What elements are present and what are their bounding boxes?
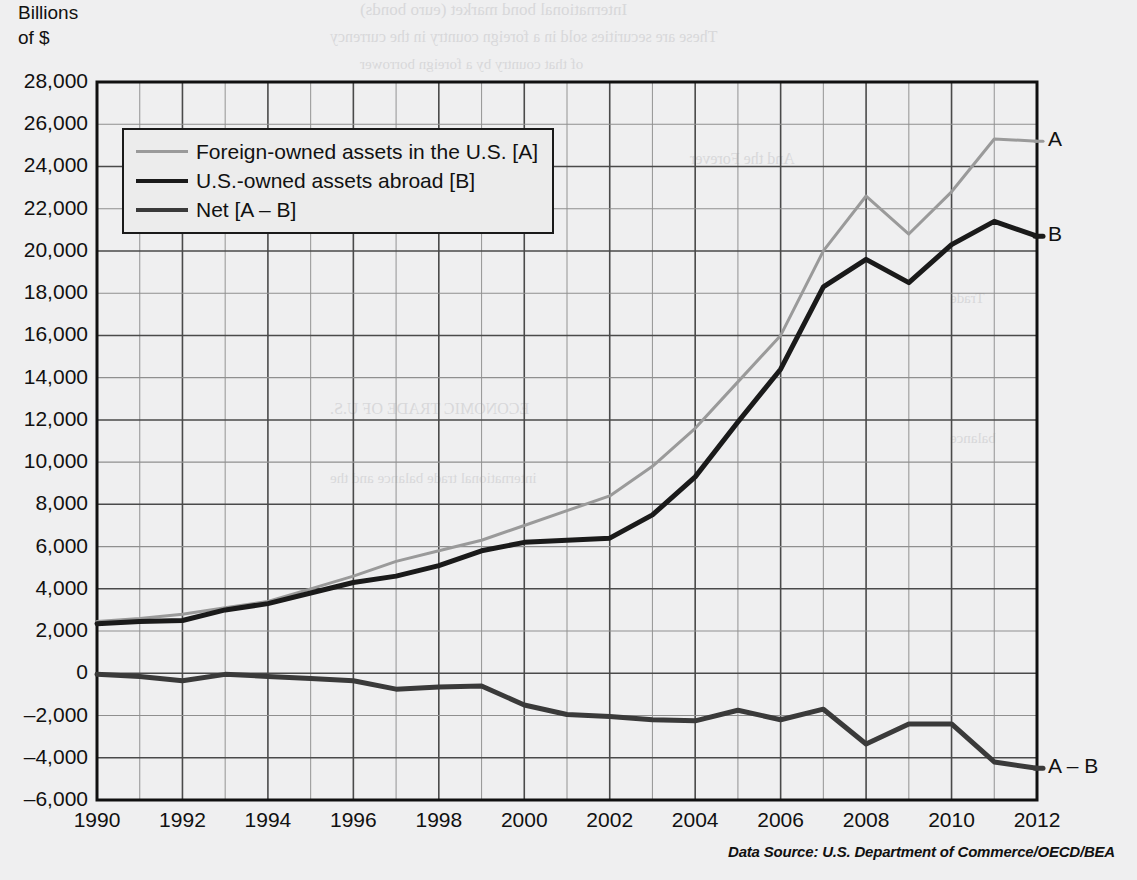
x-tick-label: 2002 xyxy=(565,808,655,832)
series-end-label: A xyxy=(1048,127,1062,151)
y-tick-label: 2,000 xyxy=(2,618,88,642)
x-tick-label: 2012 xyxy=(992,808,1082,832)
x-tick-label: 2004 xyxy=(650,808,740,832)
chart-legend: Foreign-owned assets in the U.S. [A] U.S… xyxy=(122,128,554,234)
y-tick-label: –4,000 xyxy=(2,745,88,769)
x-tick-label: 2010 xyxy=(907,808,997,832)
x-tick-label: 1998 xyxy=(394,808,484,832)
y-tick-label: –2,000 xyxy=(2,703,88,727)
x-tick-label: 1994 xyxy=(223,808,313,832)
y-tick-label: 8,000 xyxy=(2,491,88,515)
y-tick-label: 16,000 xyxy=(2,322,88,346)
legend-line-swatch-net xyxy=(136,208,188,212)
y-tick-label: 18,000 xyxy=(2,280,88,304)
x-tick-label: 2006 xyxy=(736,808,826,832)
legend-label-a: Foreign-owned assets in the U.S. [A] xyxy=(196,140,538,164)
y-tick-label: 10,000 xyxy=(2,449,88,473)
series-end-label: B xyxy=(1048,222,1062,246)
y-tick-label: 6,000 xyxy=(2,534,88,558)
x-tick-label: 1992 xyxy=(137,808,227,832)
x-tick-label: 1996 xyxy=(308,808,398,832)
y-tick-label: 14,000 xyxy=(2,365,88,389)
y-tick-label: 28,000 xyxy=(2,69,88,93)
y-tick-label: 12,000 xyxy=(2,407,88,431)
x-tick-label: 1990 xyxy=(52,808,142,832)
legend-item-net[interactable]: Net [A – B] xyxy=(136,195,538,224)
data-source-note: Data Source: U.S. Department of Commerce… xyxy=(728,843,1115,860)
y-tick-label: 0 xyxy=(2,660,88,684)
x-tick-label: 2008 xyxy=(821,808,911,832)
y-tick-label: 22,000 xyxy=(2,196,88,220)
y-tick-label: 20,000 xyxy=(2,238,88,262)
series-end-label: A – B xyxy=(1048,754,1098,778)
legend-line-swatch-a xyxy=(136,150,188,153)
x-tick-label: 2000 xyxy=(479,808,569,832)
y-tick-label: 26,000 xyxy=(2,111,88,135)
y-tick-label: 4,000 xyxy=(2,576,88,600)
legend-label-net: Net [A – B] xyxy=(196,198,296,222)
legend-label-b: U.S.-owned assets abroad [B] xyxy=(196,169,475,193)
legend-item-b[interactable]: U.S.-owned assets abroad [B] xyxy=(136,166,538,195)
legend-line-swatch-b xyxy=(136,179,188,183)
y-tick-label: 24,000 xyxy=(2,153,88,177)
legend-item-a[interactable]: Foreign-owned assets in the U.S. [A] xyxy=(136,137,538,166)
